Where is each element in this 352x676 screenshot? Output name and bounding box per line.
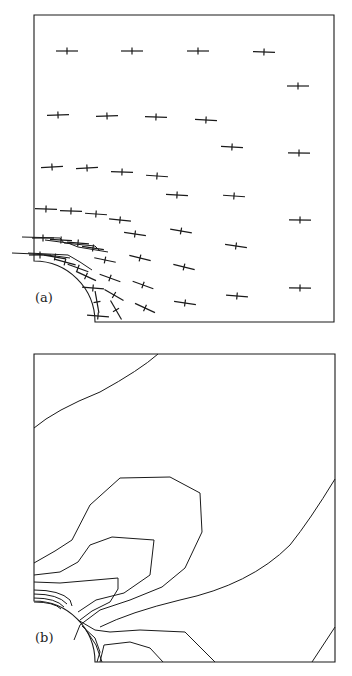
- stress-cross: [85, 210, 107, 219]
- stress-cross: [134, 300, 157, 316]
- stress-cross: [166, 191, 188, 199]
- panel-b-label: (b): [35, 630, 53, 645]
- stress-cross: [146, 172, 168, 181]
- stress-cross: [92, 291, 103, 314]
- contour-lines: [34, 354, 335, 662]
- stress-cross: [253, 48, 275, 56]
- stress-cross: [128, 252, 151, 264]
- figure-canvas: [0, 0, 352, 676]
- panel-b: [34, 354, 335, 662]
- stress-crosses: [29, 48, 311, 322]
- stress-cross: [111, 168, 133, 176]
- stress-cross: [289, 284, 311, 291]
- stress-cross: [170, 226, 193, 237]
- stress-cross: [187, 48, 209, 55]
- stress-cross: [223, 192, 245, 201]
- stress-cross: [103, 286, 126, 303]
- stress-cross: [94, 254, 117, 265]
- stress-cross: [109, 215, 132, 224]
- stress-cross: [41, 163, 63, 171]
- stress-cross: [172, 261, 195, 273]
- stress-cross: [221, 143, 243, 151]
- stress-cross: [47, 111, 69, 119]
- stress-cross: [225, 241, 248, 251]
- stress-cross: [76, 164, 98, 172]
- stress-cross: [174, 298, 197, 308]
- stress-cross: [35, 205, 57, 213]
- stress-cross: [98, 271, 121, 285]
- stress-cross: [145, 113, 167, 121]
- hole-edge-trajectories: [12, 237, 108, 270]
- stress-cross: [287, 83, 309, 90]
- stress-cross: [87, 312, 110, 321]
- panel-b-frame: [34, 354, 335, 662]
- stress-cross: [226, 292, 249, 301]
- stress-cross: [289, 216, 311, 223]
- stress-cross: [96, 112, 118, 120]
- panel-a: [12, 15, 334, 322]
- stress-cross: [121, 48, 143, 55]
- stress-cross: [131, 278, 154, 292]
- panel-a-label: (a): [35, 290, 53, 305]
- stress-cross: [124, 229, 147, 239]
- stress-cross: [195, 116, 217, 124]
- stress-cross: [107, 299, 124, 322]
- stress-cross: [60, 207, 82, 215]
- stress-cross: [288, 149, 310, 156]
- stress-cross: [56, 48, 78, 55]
